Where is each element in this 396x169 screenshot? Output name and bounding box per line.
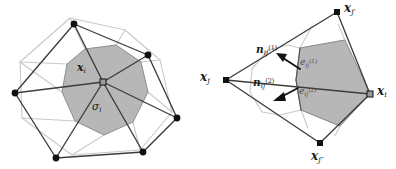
dual-edge [70,18,125,30]
label-sigma-i: σi [92,101,101,113]
interface-cell [296,40,370,126]
primal-edge [143,118,177,152]
dual-edge [20,62,22,118]
mesh-node [145,52,152,59]
dual-edge [300,26,312,48]
label-face-1: eij(1) [300,58,317,68]
label-node-xj-prime: xj′ [344,2,356,15]
dual-edge [20,62,67,64]
primal-edge [15,93,56,158]
dual-edge [22,118,75,121]
dual-mesh-figure: xi σi xj xj′ xi xj″ nij(1) nij(2) eij(1)… [0,0,396,169]
dual-edge [72,135,104,155]
left-panel-svg [0,0,396,169]
mesh-node [174,115,181,122]
label-node-xi: xi [377,85,387,98]
normal-arrow-1 [276,53,300,69]
label-center-xi: xi [77,62,86,74]
mesh-node [53,155,60,162]
center-node-xi [100,79,106,85]
arrow-head [273,92,286,101]
label-normal-1: nij(1) [256,44,277,56]
label-face-2: eij(2) [299,87,316,97]
primal-edge [148,55,177,118]
mesh-node [12,90,19,97]
node-xj-prime [334,9,340,15]
dual-edge [140,112,172,150]
node-xj-dprime [317,140,323,146]
mesh-node [140,149,147,156]
label-node-xj-double-prime: xj″ [311,150,324,163]
dual-edge [20,18,70,62]
label-normal-2: nij(2) [253,77,274,89]
dual-edge [338,24,345,40]
control-volume-cell [62,45,148,135]
arrow-shaft [283,58,300,69]
normal-arrow-2 [273,88,298,101]
node-xi [367,91,373,97]
node-xj [223,77,229,83]
dual-edge [22,118,72,155]
label-node-xj: xj [200,71,210,84]
mesh-node [71,21,78,28]
